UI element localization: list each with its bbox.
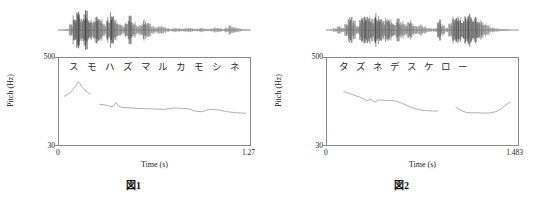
figure-1: 500 30 スモハズマルカモシネ 0 1.27 Time (s) Pitch … bbox=[0, 0, 267, 202]
pitch-trace bbox=[64, 82, 90, 97]
figure-2: 500 30 タズネデスケロー 0 1.483 Time (s) Pitch (… bbox=[268, 0, 535, 202]
y-axis-tick-top-1: 500 bbox=[36, 52, 55, 61]
kana-label: ケ bbox=[424, 62, 434, 72]
pitch-plot-2: タズネデスケロー bbox=[326, 57, 519, 146]
kana-label: タ bbox=[339, 62, 349, 72]
x-axis-title-2: Time (s) bbox=[326, 160, 519, 169]
waveform-strokes bbox=[58, 10, 251, 50]
caption-label-1: 図 bbox=[126, 180, 136, 191]
y-axis-title-1: Pitch (Hz) bbox=[6, 61, 15, 121]
kana-label: デ bbox=[390, 62, 400, 72]
y-axis-title-2: Pitch (Hz) bbox=[274, 61, 283, 121]
speech-waveform-1 bbox=[58, 8, 251, 52]
pitch-trace bbox=[344, 92, 438, 111]
kana-label: ネ bbox=[230, 62, 240, 72]
kana-label: ス bbox=[69, 62, 79, 72]
kana-label: ル bbox=[158, 62, 168, 72]
x-axis-tick-right-2: 1.483 bbox=[506, 148, 523, 157]
kana-label: モ bbox=[87, 62, 97, 72]
pitch-plot-1: スモハズマルカモシネ bbox=[58, 57, 251, 146]
caption-number-1: 1 bbox=[136, 180, 141, 191]
y-axis-tick-top-2: 500 bbox=[304, 52, 323, 61]
kana-label: ー bbox=[458, 62, 468, 72]
kana-annotation-row-1: スモハズマルカモシネ bbox=[59, 62, 250, 72]
speech-waveform-2 bbox=[326, 8, 519, 52]
figure-caption-2: 図2 bbox=[268, 177, 535, 192]
figure-page: 500 30 スモハズマルカモシネ 0 1.27 Time (s) Pitch … bbox=[0, 0, 535, 202]
waveform-panel-2 bbox=[326, 8, 519, 52]
x-axis-tick-right-1: 1.27 bbox=[242, 148, 255, 157]
figure-caption-1: 図1 bbox=[0, 177, 267, 192]
kana-label: ズ bbox=[356, 62, 366, 72]
y-axis-tick-bottom-1: 30 bbox=[36, 141, 55, 150]
caption-label-2: 図 bbox=[394, 180, 404, 191]
kana-label: ハ bbox=[105, 62, 115, 72]
x-axis-title-1: Time (s) bbox=[58, 160, 251, 169]
kana-annotation-row-2: タズネデスケロー bbox=[327, 62, 518, 72]
kana-label: ズ bbox=[123, 62, 133, 72]
pitch-trace bbox=[456, 102, 510, 113]
kana-label: ロ bbox=[441, 62, 451, 72]
kana-label: シ bbox=[212, 62, 222, 72]
kana-label: マ bbox=[141, 62, 151, 72]
caption-number-2: 2 bbox=[404, 180, 409, 191]
waveform-strokes bbox=[326, 13, 519, 47]
kana-label: ネ bbox=[373, 62, 383, 72]
x-axis-tick-left-2: 0 bbox=[324, 148, 328, 157]
waveform-panel-1 bbox=[58, 8, 251, 52]
kana-label: カ bbox=[176, 62, 186, 72]
x-axis-tick-left-1: 0 bbox=[56, 148, 60, 157]
kana-label: ス bbox=[407, 62, 417, 72]
pitch-trace bbox=[100, 103, 246, 114]
y-axis-tick-bottom-2: 30 bbox=[304, 141, 323, 150]
kana-label: モ bbox=[194, 62, 204, 72]
